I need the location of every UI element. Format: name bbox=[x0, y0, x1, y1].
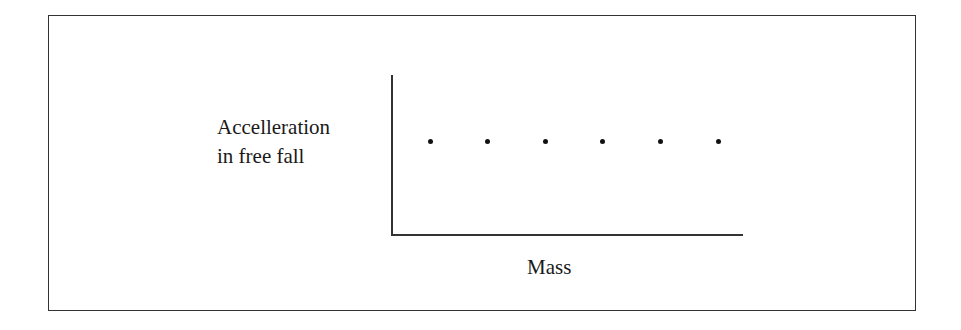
data-point bbox=[716, 139, 721, 144]
y-axis-label-line-1: Accelleration bbox=[217, 113, 330, 142]
y-axis-label: Accelleration in free fall bbox=[217, 113, 330, 171]
x-axis bbox=[391, 234, 743, 236]
data-point bbox=[428, 139, 433, 144]
data-point bbox=[485, 139, 490, 144]
y-axis bbox=[391, 75, 393, 236]
data-point bbox=[658, 139, 663, 144]
data-point bbox=[600, 139, 605, 144]
data-point bbox=[543, 139, 548, 144]
figure-frame bbox=[48, 15, 916, 311]
y-axis-label-line-2: in free fall bbox=[217, 142, 330, 171]
x-axis-label: Mass bbox=[527, 255, 571, 280]
